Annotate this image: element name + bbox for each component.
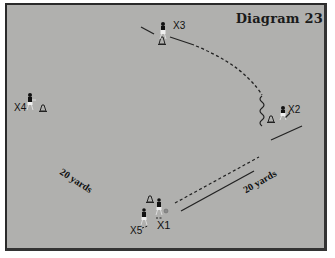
run-line-x2 (271, 126, 302, 140)
pass-line-x1-to-x2 (175, 157, 259, 203)
cone-x4 (40, 105, 46, 111)
player-label-x3: X3 (173, 20, 185, 31)
player-figure-x4 (27, 93, 36, 110)
ball-icon (164, 209, 168, 213)
cone-x2 (268, 116, 274, 122)
run-line-x1 (181, 171, 254, 211)
player-label-x1: X1 (157, 219, 170, 231)
pass-line-x3-to-x2 (196, 46, 262, 95)
player-label-x4: X4 (14, 102, 26, 113)
diagram-title: Diagram 23 (236, 11, 323, 26)
player-label-x5: X5 (130, 225, 142, 236)
cone-x1 (147, 196, 153, 202)
player-figure-x1 (156, 198, 162, 218)
dribble-line-x2 (260, 96, 264, 126)
player-figure-x2 (280, 106, 286, 120)
player-label-x2: X2 (288, 104, 300, 115)
run-line-x3 (141, 27, 194, 45)
player-figure-x3 (160, 22, 166, 39)
